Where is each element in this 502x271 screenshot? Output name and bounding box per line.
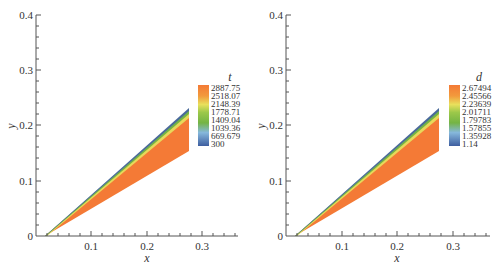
color-legend-t: t 2887.75 2518.07 2148.39 1778.71 1409.0…: [198, 70, 241, 149]
y-tick-0.1: 0.1: [19, 175, 33, 187]
x-axis-title: x: [143, 251, 150, 265]
color-legend-d: d 2.67494 2.45566 2.23639 2.01711 1.7978…: [449, 70, 492, 149]
x-tick-0.1: 0.1: [335, 240, 349, 252]
y-tick-0.4: 0.4: [269, 9, 283, 21]
legend-label: 300: [211, 139, 225, 149]
y-tick-0.2: 0.2: [19, 119, 33, 131]
x-axis-title: x: [393, 251, 400, 265]
chart-panel-d: 0.4 0.3 0.2 0.1 0 0.1 0.2 0.3 x y d 2.67…: [250, 0, 501, 271]
x-tick-0.1: 0.1: [84, 240, 98, 252]
colorbar: [449, 85, 460, 146]
y-tick-0: 0: [28, 230, 34, 242]
x-tick-0.3: 0.3: [446, 240, 460, 252]
y-tick-0.3: 0.3: [269, 64, 283, 76]
y-tick-labels: 0.4 0.3 0.2 0.1 0: [269, 9, 283, 242]
legend-title: d: [476, 70, 483, 84]
x-tick-0.3: 0.3: [195, 240, 209, 252]
y-axis-title: y: [254, 123, 268, 130]
contour-plot-t: 0.4 0.3 0.2 0.1 0 0.1 0.2 0.3 x y t 2887…: [0, 0, 251, 271]
colorbar: [198, 85, 209, 146]
wedge-region: [45, 108, 189, 236]
legend-label: 1.14: [462, 139, 478, 149]
y-tick-0.3: 0.3: [19, 64, 33, 76]
contour-plot-d: 0.4 0.3 0.2 0.1 0 0.1 0.2 0.3 x y d 2.67…: [250, 0, 502, 271]
chart-panel-t: 0.4 0.3 0.2 0.1 0 0.1 0.2 0.3 x y t 2887…: [0, 0, 251, 271]
y-tick-labels: 0.4 0.3 0.2 0.1 0: [19, 9, 33, 242]
y-axis-title: y: [4, 123, 18, 130]
y-tick-0.4: 0.4: [19, 9, 33, 21]
y-tick-0: 0: [278, 230, 284, 242]
wedge-region: [295, 108, 439, 236]
y-tick-0.2: 0.2: [269, 119, 283, 131]
y-tick-0.1: 0.1: [269, 175, 283, 187]
legend-title: t: [228, 70, 232, 84]
